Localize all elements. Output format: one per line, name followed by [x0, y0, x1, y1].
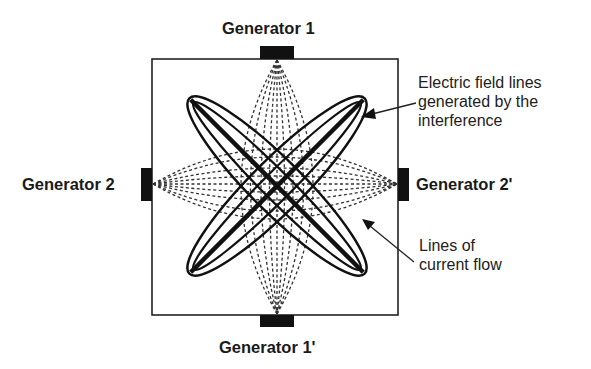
- field-lines-annotation: Electric field lines generated by the in…: [418, 73, 542, 130]
- field-lines-annotation-line-2: generated by the: [418, 92, 542, 111]
- generator-1-prime-electrode: [260, 315, 294, 327]
- generator-2-prime-electrode: [398, 168, 409, 201]
- generator-2-electrode: [141, 168, 152, 201]
- current-flow-annotation-line-2: current flow: [419, 255, 502, 274]
- current-flow-arrow: [362, 219, 414, 262]
- generator-2-prime-label: Generator 2': [416, 175, 513, 194]
- field-lines-arrow: [361, 103, 416, 119]
- field-lines-annotation-line-3: interference: [418, 111, 542, 130]
- generator-1-label: Generator 1: [222, 19, 315, 38]
- field-lines-annotation-line-1: Electric field lines: [418, 73, 542, 92]
- interference-diagram: Generator 1 Generator 1' Generator 2 Gen…: [0, 0, 591, 369]
- current-flow-annotation-line-1: Lines of: [419, 236, 502, 255]
- generator-1-prime-label: Generator 1': [219, 338, 316, 357]
- generator-1-electrode: [260, 46, 294, 59]
- current-flow-annotation: Lines of current flow: [419, 236, 502, 274]
- generator-2-label: Generator 2: [22, 175, 115, 194]
